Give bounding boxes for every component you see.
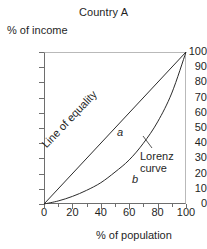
x-tick-mark <box>129 204 130 209</box>
x-tick-mark-minor <box>115 204 116 207</box>
x-tick-mark-minor <box>58 204 59 207</box>
x-tick-mark <box>72 204 73 209</box>
region-b-label: b <box>132 173 138 185</box>
x-tick-mark-minor <box>172 204 173 207</box>
x-tick-mark-minor <box>87 204 88 207</box>
x-tick-mark <box>186 204 187 209</box>
x-axis-label: % of population <box>96 229 172 241</box>
x-tick-mark-minor <box>143 204 144 207</box>
region-a-label: a <box>117 126 123 138</box>
lorenz-curve-label-line2: curve <box>140 162 174 174</box>
lorenz-curve-label: Lorenz curve <box>140 150 174 174</box>
x-tick-mark <box>101 204 102 209</box>
chart-title: Country A <box>0 6 207 18</box>
lorenz-curve-label-line1: Lorenz <box>140 150 174 162</box>
lorenz-curve-figure: Country A % of income % of population 01… <box>0 0 207 249</box>
x-tick-mark <box>44 204 45 209</box>
x-tick-mark <box>158 204 159 209</box>
y-axis-label: % of income <box>7 24 68 36</box>
